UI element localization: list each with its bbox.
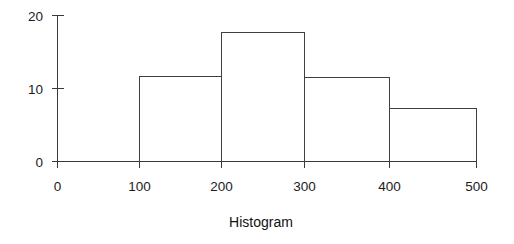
histogram-plot-area: 20 10 0 0 100 200 300 400 500 Histogram xyxy=(0,0,514,244)
y-tick-label-20: 20 xyxy=(28,9,43,24)
histogram-bar xyxy=(222,33,305,162)
histogram-figure: 20 10 0 0 100 200 300 400 500 Histogram xyxy=(0,0,514,244)
x-tick-label-400: 400 xyxy=(378,179,401,194)
histogram-bar xyxy=(305,78,390,162)
histogram-bar xyxy=(390,108,477,161)
y-tick-label-10: 10 xyxy=(28,82,43,97)
x-tick-label-100: 100 xyxy=(128,179,151,194)
x-axis-title: Histogram xyxy=(229,214,293,230)
x-tick-label-200: 200 xyxy=(210,179,233,194)
y-tick-label-0: 0 xyxy=(35,155,43,170)
x-tick-label-500: 500 xyxy=(465,179,488,194)
x-tick-label-0: 0 xyxy=(54,179,62,194)
x-tick-label-300: 300 xyxy=(293,179,316,194)
histogram-bar xyxy=(140,77,222,162)
